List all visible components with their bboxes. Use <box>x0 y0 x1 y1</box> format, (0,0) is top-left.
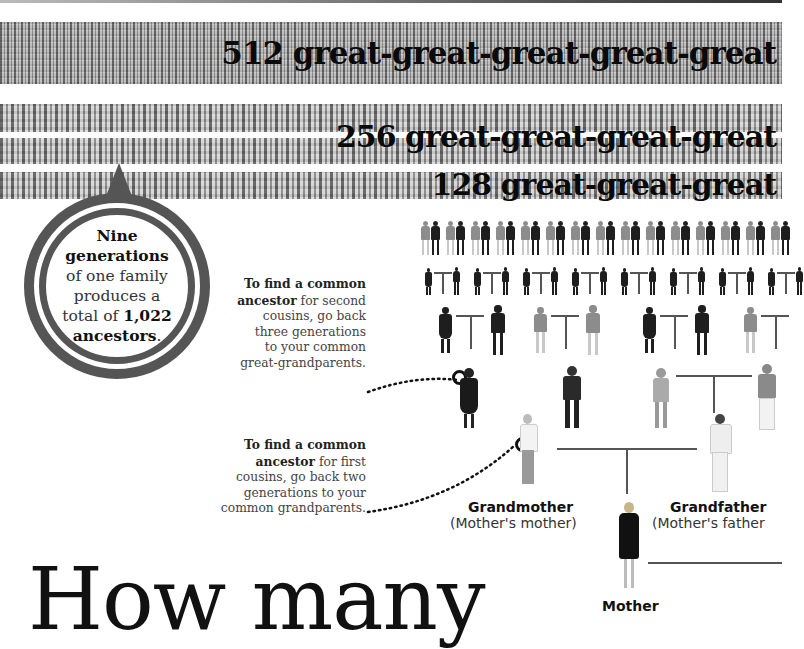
ancestor-figure <box>580 221 591 255</box>
tree-connector <box>638 272 640 294</box>
person-mother <box>618 502 640 588</box>
note1-bold: ancestor <box>256 454 316 469</box>
tree-connector-mother <box>648 562 782 564</box>
ancestor-figure <box>630 221 641 255</box>
note2-line4: three generations <box>218 325 366 341</box>
label-grandfather: Grandfather <box>670 499 766 515</box>
note2-bold: ancestor <box>237 293 297 308</box>
ancestor-figure <box>455 221 466 255</box>
band-label-128: 128 great-great-great <box>432 170 776 200</box>
note1-line3: cousins, go back two <box>218 470 366 486</box>
tree-connector <box>785 272 787 294</box>
ancestor-figure <box>473 268 482 295</box>
ancestor-figure <box>430 221 441 255</box>
note2-line3: cousins, go back <box>218 309 366 325</box>
ancestor-figure <box>452 267 461 295</box>
tree-connector <box>687 272 689 294</box>
callout-line1: Nine <box>96 226 137 245</box>
note1-line2: for first <box>315 455 366 469</box>
note2-line1: To find a common <box>244 276 366 291</box>
ancestor-figure <box>669 268 678 295</box>
note2-line5: to your common <box>218 340 366 356</box>
note1-line5: common grandparents. <box>218 501 366 517</box>
callout-line2: generations <box>65 246 168 265</box>
person-grandfather <box>708 414 732 492</box>
ancestor-figure <box>642 307 657 353</box>
note1-line1: To find a common <box>244 437 366 452</box>
person-great-grandmother-2 <box>652 368 670 428</box>
ancestor-figure <box>490 305 506 355</box>
ancestor-figure <box>718 268 727 295</box>
label-grandmother: Grandmother <box>468 499 573 515</box>
callout-total: 1,022 <box>123 306 172 325</box>
person-great-grandfather-2 <box>756 364 778 430</box>
tree-connector-grandparents-v <box>626 448 628 494</box>
ancestor-figure <box>705 221 716 255</box>
person-great-grandmother-1 <box>458 368 480 428</box>
tree-connector <box>540 272 542 294</box>
ancestor-figure <box>550 267 559 295</box>
ancestor-figure <box>438 307 453 353</box>
callout-line4: produces a <box>44 286 190 306</box>
ancestor-figure <box>648 267 657 295</box>
ancestor-figure <box>585 305 601 355</box>
person-grandmother <box>518 414 538 484</box>
ancestor-figure <box>533 307 548 353</box>
ancestor-figure <box>620 268 629 295</box>
tree-connector-v <box>713 375 715 413</box>
band-label-512: 512 great-great-great-great-great <box>221 38 776 69</box>
ancestor-figure <box>501 267 510 295</box>
ancestor-figure <box>795 267 804 295</box>
tree-connector <box>442 272 444 294</box>
ancestor-figure <box>505 221 516 255</box>
ancestor-figure <box>480 221 491 255</box>
ancestor-figure <box>746 267 755 295</box>
tree-connector <box>775 315 777 349</box>
callout-line3: of one family <box>44 266 190 286</box>
ancestor-figure <box>599 267 608 295</box>
ancestor-figure <box>767 268 776 295</box>
ancestor-figure <box>555 221 566 255</box>
tree-connector <box>674 315 676 349</box>
ancestor-figure <box>755 221 766 255</box>
callout-text: Nine generations of one family produces … <box>44 226 190 346</box>
label-grandmother-relation: (Mother's mother) <box>450 515 577 531</box>
ancestor-figure <box>605 221 616 255</box>
ancestor-figure <box>680 221 691 255</box>
ancestor-figure <box>655 221 666 255</box>
note2-line2: for second <box>297 294 366 308</box>
ancestor-figure <box>424 268 433 295</box>
note2-line6: great-grandparents. <box>218 356 366 372</box>
note-first-cousins: To find a common ancestor for first cous… <box>218 437 366 517</box>
band-label-256: 256 great-great-great-great <box>336 122 776 152</box>
label-grandfather-relation: (Mother's father <box>652 515 765 531</box>
note1-line4: generations to your <box>218 486 366 502</box>
tree-connector <box>491 272 493 294</box>
ancestor-figure <box>530 221 541 255</box>
ancestor-figure <box>697 267 706 295</box>
tree-connector <box>589 272 591 294</box>
callout-line5: total of <box>62 307 123 325</box>
ancestor-figure <box>571 268 580 295</box>
ancestor-figure <box>780 221 791 255</box>
tree-connector <box>736 272 738 294</box>
tree-connector <box>565 315 567 349</box>
tree-connector <box>470 315 472 349</box>
ancestor-figure <box>730 221 741 255</box>
top-border <box>0 0 782 3</box>
note-second-cousins: To find a common ancestor for second cou… <box>218 276 366 372</box>
label-mother: Mother <box>602 598 659 614</box>
person-great-grandfather-1 <box>562 366 582 428</box>
callout-line6: ancestors <box>73 326 157 345</box>
ancestor-figure <box>743 307 758 353</box>
ancestor-figure <box>522 268 531 295</box>
ancestor-figure <box>694 305 710 355</box>
callout-period: . <box>156 327 161 345</box>
headline: How many <box>28 556 485 642</box>
